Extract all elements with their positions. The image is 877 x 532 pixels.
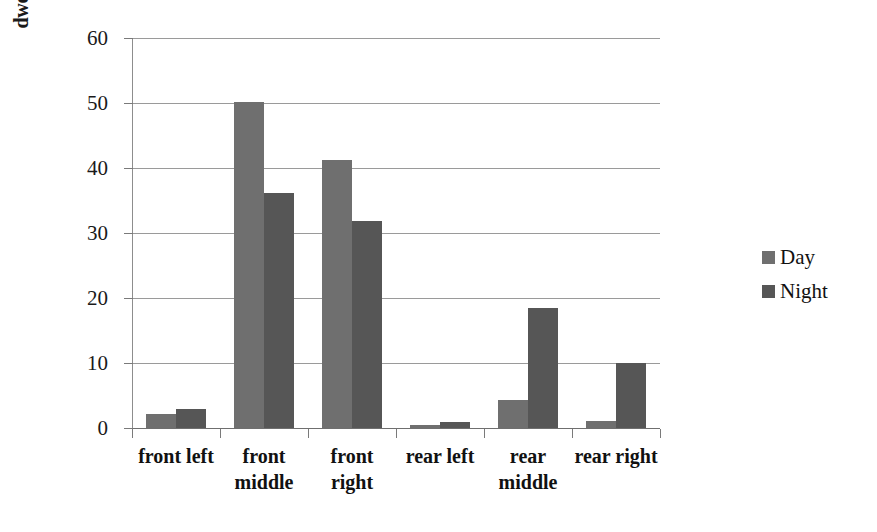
gridline-30 [132, 233, 660, 234]
legend-label: Night [780, 279, 828, 304]
y-tick-mark-20 [124, 298, 133, 299]
x-category-label-line: middle [474, 469, 582, 495]
x-tick-mark [572, 429, 573, 438]
plot-area [132, 38, 660, 428]
y-tick-mark-60 [124, 38, 133, 39]
bar-rear-middle-night [528, 308, 558, 428]
gridline-10 [132, 363, 660, 364]
x-category-label-line: right [298, 469, 406, 495]
gridline-40 [132, 168, 660, 169]
y-tick-mark-50 [124, 103, 133, 104]
bar-rear-left-night [440, 422, 470, 428]
x-tick-mark [484, 429, 485, 438]
bar-rear-middle-day [498, 400, 528, 428]
y-tick-label: 10 [62, 351, 108, 376]
x-tick-mark [308, 429, 309, 438]
y-tick-label: 0 [62, 416, 108, 441]
x-tick-mark [132, 429, 133, 438]
bar-rear-left-day [410, 425, 440, 428]
bar-rear-right-day [586, 421, 616, 428]
x-tick-mark [396, 429, 397, 438]
legend-label: Day [780, 245, 815, 270]
y-axis-tick-labels: 6050403020100 [62, 0, 108, 532]
y-tick-mark-30 [124, 233, 133, 234]
y-tick-label: 30 [62, 221, 108, 246]
y-tick-label: 60 [62, 26, 108, 51]
bar-front-left-day [146, 414, 176, 428]
x-category-label-line: rear right [562, 443, 670, 469]
x-tick-mark [220, 429, 221, 438]
bar-front-right-night [352, 221, 382, 428]
y-tick-label: 50 [62, 91, 108, 116]
y-tick-mark-40 [124, 168, 133, 169]
legend-item-night[interactable]: Night [762, 274, 872, 308]
y-tick-label: 20 [62, 286, 108, 311]
gridline-20 [132, 298, 660, 299]
bar-front-left-night [176, 409, 206, 428]
bar-chart-figure: dwell time percentage [%] 6050403020100 … [0, 0, 877, 532]
legend-item-day[interactable]: Day [762, 240, 872, 274]
x-category-label-rear-right: rear right [562, 443, 670, 469]
bar-rear-right-night [616, 363, 646, 428]
bar-front-middle-night [264, 193, 294, 428]
gridline-60 [132, 38, 660, 39]
legend-swatch-icon [762, 285, 775, 298]
x-tick-mark [660, 429, 661, 438]
legend-swatch-icon [762, 251, 775, 264]
y-tick-mark-10 [124, 363, 133, 364]
y-axis-title: dwell time percentage [%] [10, 0, 40, 85]
bar-front-middle-day [234, 102, 264, 428]
gridline-50 [132, 103, 660, 104]
y-tick-label: 40 [62, 156, 108, 181]
bar-front-right-day [322, 160, 352, 428]
chart-legend: DayNight [762, 240, 872, 308]
